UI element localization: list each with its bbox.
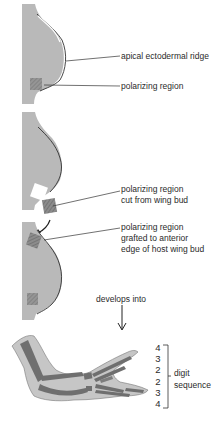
host-polarizing-region — [27, 293, 38, 305]
digit-sequence-numbers: 4 3 2 2 3 4 — [153, 342, 163, 409]
wing-bud-tissue — [22, 4, 64, 104]
wing-bud-panel-1 — [22, 4, 120, 104]
label-apical-ectodermal-ridge: apical ectodermal ridge — [121, 51, 209, 61]
digit: 2 — [153, 364, 163, 375]
digit: 4 — [153, 342, 163, 353]
label-polarizing-region-cut-2: cut from wing bud — [121, 195, 188, 205]
label-grafted-1: polarizing region — [121, 222, 183, 232]
label-develops-into: develops into — [96, 294, 146, 304]
label-grafted-2: grafted to anterior — [121, 233, 188, 243]
label-polarizing-region-cut-1: polarizing region — [121, 184, 183, 194]
wing-bud-panel-3 — [22, 222, 120, 320]
digit: 4 — [153, 398, 163, 409]
digit-bracket — [163, 345, 171, 408]
digit: 2 — [153, 376, 163, 387]
transfer-arrow — [38, 220, 50, 233]
digit: 3 — [153, 387, 163, 398]
label-polarizing-region: polarizing region — [121, 81, 183, 91]
wing-bud-panel-2 — [22, 112, 120, 234]
develops-arrow — [118, 305, 126, 330]
wing-skeleton — [12, 335, 148, 400]
label-sequence: sequence — [174, 380, 211, 390]
label-grafted-3: edge of host wing bud — [121, 244, 204, 254]
label-digit: digit — [174, 368, 190, 378]
polarizing-region — [30, 78, 42, 90]
digit: 3 — [153, 353, 163, 364]
